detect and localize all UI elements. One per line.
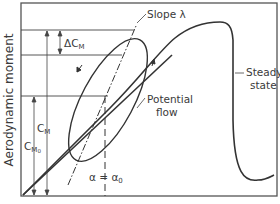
alpha-label: α = α0 [89,171,123,185]
potential-flow-label-2: flow [156,106,178,118]
cm0-label: CM0 [24,140,41,154]
potential-flow-label: Potential [147,93,193,105]
loop-direction-arrows [77,59,155,72]
slope-label: Slope λ [147,8,186,20]
steady-state-curve [23,22,274,195]
delta-cm-label: ΔCM [64,37,85,51]
steady-state-label: Steady [246,66,280,78]
cm-label: CM [37,122,50,136]
y-axis-label: Aerodynamic moment [2,33,16,166]
steady-state-label-2: state [250,79,277,91]
dimension-arrows [32,31,62,195]
aerodynamic-moment-diagram: Aerodynamic moment [0,0,280,204]
